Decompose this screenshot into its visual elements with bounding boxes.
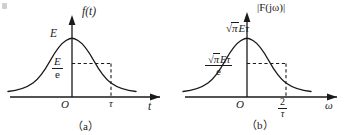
secondary-value-label-a: E e: [52, 56, 63, 80]
fraction-denominator: e: [52, 69, 63, 81]
panel-caption-b: （b）: [246, 116, 274, 132]
y-axis-a: [69, 15, 76, 97]
figure-panel-b: |F(jω)| ω √πEτ O √πEτ e 2 τ （b）: [177, 0, 354, 135]
y-axis-label-b: |F(jω)|: [257, 2, 285, 13]
y-axis-label-a: f(t): [82, 6, 96, 18]
figure-panel-a: f(t) t E O τ E e （a）: [0, 0, 177, 135]
radicand-secondary-b: π: [213, 53, 220, 65]
numerator-rest-b: Eτ: [220, 54, 230, 65]
fraction-numerator: E: [52, 56, 63, 69]
figure-pair: f(t) t E O τ E e （a） |F(jω)| ω: [0, 0, 354, 135]
radicand-peak-b: π: [231, 22, 239, 34]
tick-denominator: τ: [278, 109, 287, 120]
x-axis-a: [10, 94, 160, 101]
x-axis-b: [185, 94, 337, 101]
secondary-value-label-b: √πEτ e: [205, 53, 232, 77]
radical-sign-secondary-b: √π: [207, 53, 220, 65]
peak-label-a: E: [50, 28, 57, 40]
plot-b-svg: [177, 0, 354, 135]
origin-label-a: O: [61, 99, 69, 110]
peak-label-rest-b: Eτ: [239, 22, 250, 34]
panel-caption-a: （a）: [72, 117, 99, 133]
fraction-numerator: √πEτ: [205, 53, 232, 66]
fraction-denominator: e: [205, 66, 232, 77]
peak-label-b: √πEτ: [225, 22, 249, 34]
x-tick-label-a: τ: [109, 99, 113, 110]
plot-a-svg: [0, 0, 177, 135]
x-tick-label-b: 2 τ: [278, 97, 287, 119]
tick-numerator: 2: [278, 97, 287, 109]
x-axis-label-a: t: [148, 101, 151, 113]
radical-sign-peak-b: √π: [225, 22, 239, 34]
x-axis-label-b: ω: [325, 100, 333, 111]
origin-label-b: O: [236, 99, 244, 110]
